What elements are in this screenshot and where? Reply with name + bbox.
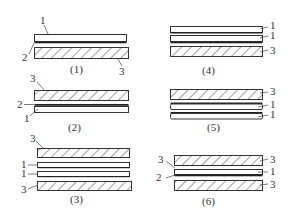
leader-line bbox=[37, 82, 45, 91]
layer-2-dark bbox=[171, 32, 263, 34]
layer-3-hatched bbox=[38, 149, 130, 158]
layer-1-white bbox=[171, 36, 263, 42]
leader-line bbox=[166, 175, 175, 178]
label-2: 2 bbox=[22, 51, 28, 63]
panel-caption: (5) bbox=[207, 121, 220, 134]
leader-line bbox=[36, 141, 44, 149]
label-1: 1 bbox=[21, 167, 27, 179]
layer-2-dark bbox=[175, 175, 263, 177]
panel-4: 1 1 3 (4) bbox=[171, 19, 277, 77]
label-2: 2 bbox=[17, 98, 23, 110]
layer-3-hatched bbox=[171, 90, 263, 100]
layer-2-dark bbox=[35, 104, 129, 106]
layer-1-white bbox=[35, 35, 127, 42]
layer-3-hatched bbox=[35, 91, 129, 101]
label-3: 3 bbox=[30, 132, 36, 144]
layer-2-dark bbox=[35, 42, 127, 44]
layer-1-white bbox=[175, 170, 263, 175]
label-1: 1 bbox=[40, 14, 46, 26]
panel-1: 1 2 3 (1) bbox=[22, 14, 129, 77]
layer-2-dark bbox=[38, 167, 130, 168]
panel-caption: (6) bbox=[202, 195, 215, 208]
layer-1-white bbox=[38, 163, 130, 168]
leader-line bbox=[166, 161, 175, 168]
label-1: 1 bbox=[270, 29, 276, 41]
layer-3-hatched bbox=[171, 47, 263, 57]
layer-1-white bbox=[35, 107, 129, 113]
layer-3-hatched bbox=[175, 181, 263, 191]
label-3: 3 bbox=[30, 72, 36, 84]
panel-3: 3 1 1 3 (3) bbox=[21, 132, 132, 206]
layer-stack-diagram: 1 2 3 (1) 3 2 1 (2) 3 1 1 3 (3) bbox=[0, 0, 293, 221]
label-3: 3 bbox=[270, 85, 276, 97]
layer-1-white bbox=[38, 172, 130, 177]
panel-caption: (1) bbox=[70, 63, 83, 76]
leader-line bbox=[44, 25, 48, 34]
layer-3-hatched bbox=[175, 156, 263, 166]
label-3: 3 bbox=[270, 153, 276, 165]
layer-3-hatched bbox=[35, 48, 129, 59]
label-3: 3 bbox=[21, 183, 27, 195]
panel-2: 3 2 1 (2) bbox=[17, 72, 129, 134]
panel-caption: (3) bbox=[70, 193, 83, 206]
label-1: 1 bbox=[270, 165, 276, 177]
layer-1-white bbox=[171, 27, 263, 33]
label-2: 2 bbox=[156, 171, 162, 183]
layer-1-white bbox=[171, 114, 263, 120]
label-3: 3 bbox=[158, 153, 164, 165]
layer-3-hatched bbox=[38, 182, 132, 191]
panel-5: 3 1 1 (5) bbox=[171, 85, 277, 134]
panel-6: 3 3 2 1 3 (6) bbox=[156, 153, 276, 208]
label-1: 1 bbox=[270, 108, 276, 120]
label-3: 3 bbox=[270, 44, 276, 56]
layer-1-white bbox=[171, 104, 263, 110]
label-1: 1 bbox=[24, 112, 30, 124]
leader-line bbox=[28, 185, 38, 189]
layer-2-dark bbox=[38, 176, 130, 177]
layer-2-dark bbox=[171, 42, 263, 44]
panel-caption: (4) bbox=[202, 64, 215, 77]
panel-caption: (2) bbox=[68, 121, 81, 134]
label-3: 3 bbox=[270, 178, 276, 190]
leader-line bbox=[29, 43, 34, 54]
label-3: 3 bbox=[119, 65, 125, 77]
